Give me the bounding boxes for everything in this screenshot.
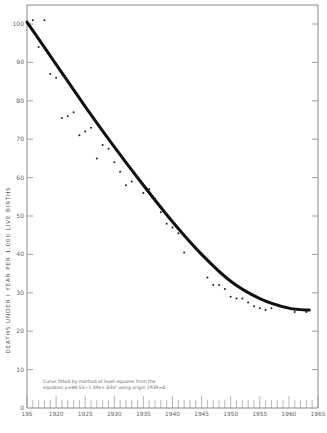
svg-text:20: 20 [16, 327, 24, 334]
svg-text:1960: 1960 [282, 411, 297, 417]
plot-frame [27, 5, 318, 408]
svg-text:100: 100 [13, 20, 25, 27]
y-axis-label: DEATHS UNDER I YEAR PER 1,000 LIVE BIRTH… [1, 125, 15, 415]
svg-text:1920: 1920 [49, 411, 64, 417]
svg-text:70: 70 [16, 135, 24, 142]
svg-text:30: 30 [16, 289, 24, 296]
svg-text:1945: 1945 [194, 411, 209, 417]
svg-text:50: 50 [16, 212, 24, 219]
svg-text:60: 60 [16, 174, 24, 181]
svg-text:195: 195 [21, 411, 32, 417]
svg-text:1965: 1965 [311, 411, 326, 417]
svg-text:1950: 1950 [223, 411, 238, 417]
svg-text:1940: 1940 [165, 411, 180, 417]
svg-text:40: 40 [16, 250, 24, 257]
fit-annotation-line-2: equation y=46.53−1.59x+.03x² using origi… [43, 385, 165, 391]
fit-annotation: Curve fitted by method of least squares … [43, 379, 165, 391]
svg-text:90: 90 [16, 58, 24, 65]
x-axis-ticks: 1951920192519301935194019451950195519601… [21, 396, 325, 417]
svg-text:1925: 1925 [78, 411, 93, 417]
svg-text:1955: 1955 [252, 411, 267, 417]
svg-text:1930: 1930 [107, 411, 122, 417]
svg-text:10: 10 [16, 366, 24, 373]
y-axis-ticks: 0102030405060708090100 [13, 20, 318, 411]
svg-text:80: 80 [16, 97, 24, 104]
svg-text:0: 0 [20, 404, 24, 411]
data-points [32, 19, 308, 313]
svg-text:1935: 1935 [136, 411, 151, 417]
chart-canvas: 0102030405060708090100 19519201925193019… [0, 0, 327, 433]
fitted-curve [27, 22, 309, 310]
